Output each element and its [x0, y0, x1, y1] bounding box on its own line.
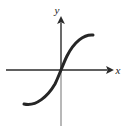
x-axis-label: x [115, 64, 121, 76]
graph-figure: y x [0, 0, 125, 131]
coordinate-plot: y x [0, 0, 125, 131]
y-axis-label: y [54, 4, 60, 16]
